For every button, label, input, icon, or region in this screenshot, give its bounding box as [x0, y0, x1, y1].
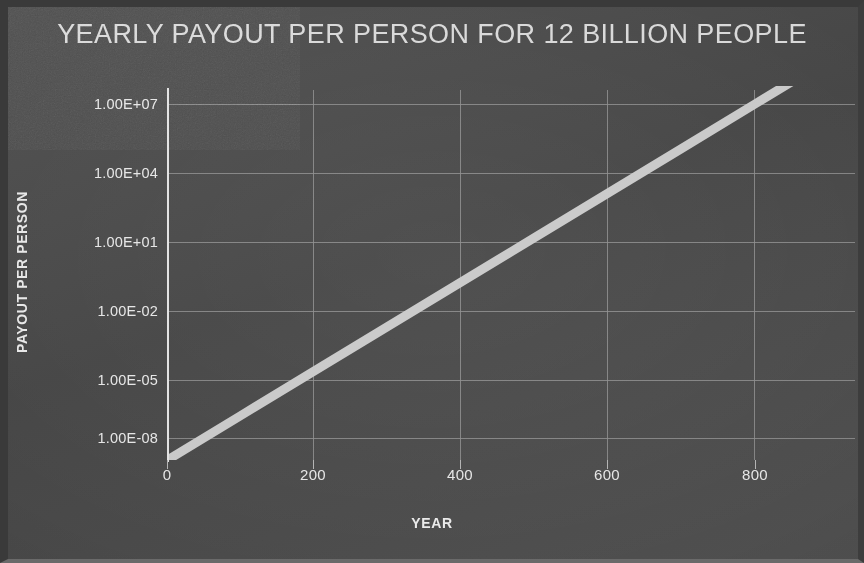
x-axis-tick-label: 400	[447, 466, 473, 483]
gridline-horizontal	[167, 438, 855, 439]
gridline-horizontal	[167, 104, 855, 105]
y-axis-title: PAYOUT PER PERSON	[14, 157, 30, 387]
x-axis-tick-label: 800	[742, 466, 768, 483]
x-axis-tick-label: 600	[594, 466, 620, 483]
y-axis-tick-label: 1.00E+01	[94, 234, 158, 250]
gridline-vertical	[313, 90, 314, 460]
gridline-vertical	[607, 90, 608, 460]
y-axis-tick-label: 1.00E-08	[98, 430, 158, 446]
x-axis-tick-label: 0	[163, 466, 172, 483]
gridline-vertical	[754, 90, 755, 460]
plot-area	[167, 90, 855, 460]
y-axis-tick-label: 1.00E+07	[94, 96, 158, 112]
chart-screenshot: YEARLY PAYOUT PER PERSON FOR 12 BILLION …	[0, 0, 864, 563]
y-axis-tick-label: 1.00E+04	[94, 165, 158, 181]
gridline-horizontal	[167, 311, 855, 312]
x-axis-title: YEAR	[0, 515, 864, 531]
y-axis-line	[167, 88, 169, 462]
gridline-horizontal	[167, 242, 855, 243]
gridline-vertical	[460, 90, 461, 460]
y-axis-tick-label: 1.00E-05	[98, 372, 158, 388]
x-axis-tick-label: 200	[300, 466, 326, 483]
gridline-horizontal	[167, 380, 855, 381]
y-axis-tick-label: 1.00E-02	[98, 303, 158, 319]
gridline-horizontal	[167, 173, 855, 174]
